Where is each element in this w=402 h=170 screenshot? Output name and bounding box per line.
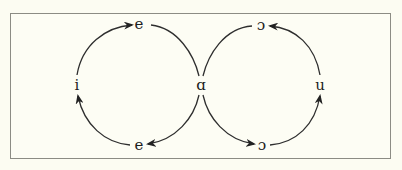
line-e-top-to-a	[151, 25, 199, 76]
arrow-i-to-e-top	[77, 25, 132, 75]
node-a-center: ɑ	[196, 78, 206, 93]
node-u: u	[315, 78, 325, 93]
line-o-top-to-a	[203, 26, 252, 76]
node-e-bottom: e	[135, 138, 144, 153]
arrow-a-to-o-bottom	[203, 95, 254, 144]
arrow-e-bottom-to-i	[78, 96, 130, 145]
node-open-o-top: ɔ	[257, 18, 265, 33]
node-i: i	[75, 78, 80, 93]
node-e-top: e	[135, 17, 144, 32]
line-o-bottom-to-u	[270, 96, 320, 145]
arrow-u-to-o-top	[270, 26, 320, 75]
arrow-a-to-e-bottom	[148, 95, 199, 144]
node-open-o-bottom: ɔ	[258, 138, 266, 153]
